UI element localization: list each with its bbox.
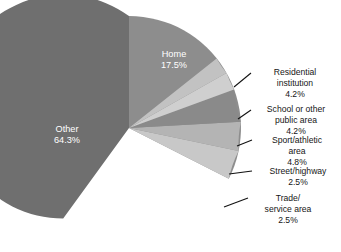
leader-line-trade-service-area: [224, 198, 248, 207]
slice-label-home-percent: 17.5%: [161, 60, 187, 70]
slice-label-other-percent: 64.3%: [54, 135, 80, 145]
slice-label-home-name: Home: [162, 49, 187, 59]
callout-labels: Residential institution 4.2% School or o…: [265, 67, 328, 225]
callout-street-highway-percent: 2.5%: [288, 177, 308, 187]
leader-line-residential-institution: [234, 73, 251, 87]
pie-chart-canvas: Home 17.5% Other 64.3% Residential insti…: [0, 0, 341, 252]
callout-sport-athletic-area-line1: Sport/athletic: [272, 135, 323, 145]
callout-street-highway-line1: Street/highway: [270, 166, 328, 176]
callout-sport-athletic-area-line2: area: [288, 146, 305, 156]
callout-residential-institution-line2: institution: [277, 78, 314, 88]
pie-slice-other[interactable]: [0, 0, 129, 219]
callout-trade-service-area-line2: service area: [265, 204, 312, 214]
pie-slices: [0, 0, 241, 219]
slice-label-other-name: Other: [56, 124, 79, 134]
callout-residential-institution-percent: 4.2%: [285, 89, 305, 99]
callout-trade-service-area-percent: 2.5%: [278, 215, 298, 225]
leader-line-street-highway: [229, 171, 252, 174]
callout-trade-service-area-line1: Trade/: [276, 193, 301, 203]
callout-trade-service-area[interactable]: Trade/ service area 2.5%: [265, 193, 312, 225]
callout-school-public-area-line2: public area: [275, 115, 317, 125]
callout-residential-institution[interactable]: Residential institution 4.2%: [274, 67, 317, 99]
callout-school-public-area[interactable]: School or other public area 4.2%: [267, 104, 325, 136]
callout-residential-institution-line1: Residential: [274, 67, 317, 77]
callout-street-highway[interactable]: Street/highway 2.5%: [270, 166, 328, 187]
callout-school-public-area-line1: School or other: [267, 104, 325, 114]
pie-chart-figure: Home 17.5% Other 64.3% Residential insti…: [0, 0, 341, 252]
callout-sport-athletic-area[interactable]: Sport/athletic area 4.8%: [272, 135, 323, 167]
